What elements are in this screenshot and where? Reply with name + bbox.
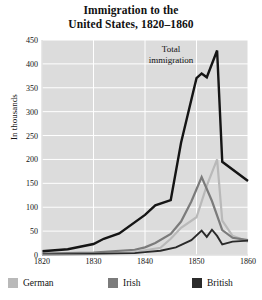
annotation-total-immigration: Total immigration xyxy=(134,44,208,66)
legend-label: Irish xyxy=(123,278,140,288)
legend-swatch-icon xyxy=(8,278,18,288)
x-tick-label: 1820 xyxy=(22,257,62,266)
legend-swatch-icon xyxy=(192,278,202,288)
x-tick-label: 1840 xyxy=(125,257,165,266)
y-tick-label: 100 xyxy=(2,203,38,212)
plot-canvas xyxy=(42,40,248,255)
chart-title-line-2: United States, 1820–1860 xyxy=(0,17,262,31)
y-axis-label: In thousands xyxy=(9,67,19,167)
y-tick-label: 50 xyxy=(2,227,38,236)
annotation-line-1: Total xyxy=(162,44,180,54)
legend-label: British xyxy=(207,278,233,288)
x-tick-label: 1850 xyxy=(177,257,217,266)
y-tick-label: 0 xyxy=(2,251,38,260)
x-tick-label: 1830 xyxy=(74,257,114,266)
plot-area xyxy=(42,40,248,255)
y-tick-label: 200 xyxy=(2,155,38,164)
chart-title-line-1: Immigration to the xyxy=(83,4,178,16)
y-tick-label: 300 xyxy=(2,107,38,116)
y-tick-label: 350 xyxy=(2,83,38,92)
chart-legend: GermanIrishBritish xyxy=(0,276,262,296)
y-tick-label: 450 xyxy=(2,36,38,45)
legend-entry-irish[interactable]: Irish xyxy=(108,278,140,288)
chart-figure: Immigration to the United States, 1820–1… xyxy=(0,0,262,300)
y-tick-label: 150 xyxy=(2,179,38,188)
legend-entry-german[interactable]: German xyxy=(8,278,54,288)
y-tick-label: 250 xyxy=(2,131,38,140)
annotation-line-2: immigration xyxy=(134,55,208,66)
legend-label: German xyxy=(23,278,54,288)
chart-title: Immigration to the United States, 1820–1… xyxy=(0,3,262,31)
legend-entry-british[interactable]: British xyxy=(192,278,233,288)
y-tick-label: 400 xyxy=(2,59,38,68)
legend-swatch-icon xyxy=(108,278,118,288)
x-tick-label: 1860 xyxy=(228,257,262,266)
